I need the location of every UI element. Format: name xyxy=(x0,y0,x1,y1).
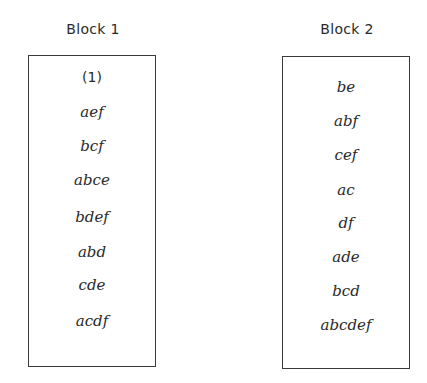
block-1-label: Block 1 xyxy=(28,21,158,37)
block-2-treatment: ade xyxy=(283,248,409,266)
block-2-treatment: ac xyxy=(283,181,409,199)
block-2-treatment: abcdef xyxy=(283,316,409,334)
block-1-treatment: aef xyxy=(29,103,155,121)
block-2-treatment: df xyxy=(283,214,409,232)
block-1-treatment: abce xyxy=(29,171,155,189)
block-1-treatment: acdf xyxy=(29,312,155,330)
block-1-treatment: bcf xyxy=(29,137,155,155)
block-1-treatment: bdef xyxy=(29,208,155,226)
block-2-label: Block 2 xyxy=(282,21,412,37)
block-1-box: (1) aef bcf abce bdef abd cde acdf xyxy=(28,55,156,367)
block-1-treatment: cde xyxy=(29,276,155,294)
block-2-treatment: cef xyxy=(283,146,409,164)
block-2-treatment: be xyxy=(283,78,409,96)
block-2-box: be abf cef ac df ade bcd abcdef xyxy=(282,56,410,369)
block-1-treatment: abd xyxy=(29,243,155,261)
block-2-treatment: bcd xyxy=(283,282,409,300)
block-1-treatment: (1) xyxy=(29,68,155,86)
block-2-treatment: abf xyxy=(283,112,409,130)
